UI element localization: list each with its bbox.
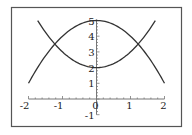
y-tick-label: 2: [88, 63, 94, 74]
y-tick-label: 1: [88, 78, 94, 89]
y-tick-label: 3: [88, 47, 94, 58]
x-tick-label: -1: [54, 100, 64, 111]
y-tick-label: 4: [88, 31, 94, 42]
plot: -2-1012-112345: [0, 0, 192, 135]
y-tick-label: -1: [85, 110, 95, 121]
x-tick-label: 1: [126, 100, 132, 111]
x-tick-label: 2: [160, 100, 166, 111]
tick-labels: -2-1012-112345: [20, 16, 167, 121]
x-tick-label: -2: [20, 100, 30, 111]
y-tick-label: 5: [88, 16, 94, 27]
